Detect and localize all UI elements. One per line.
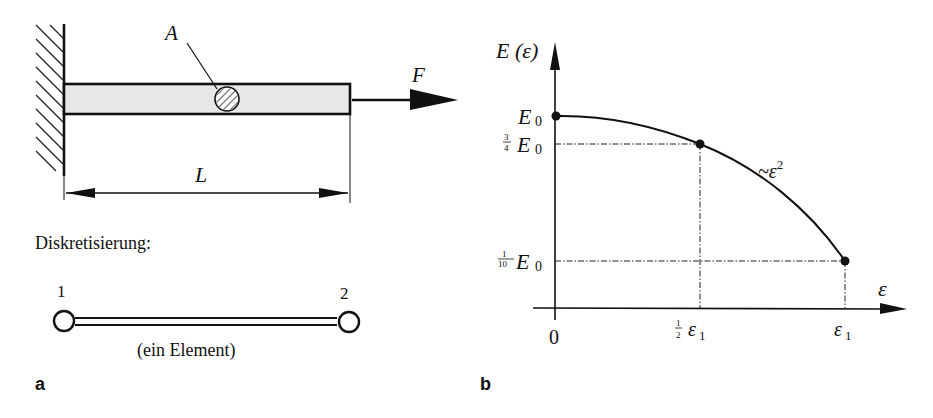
y-axis <box>550 42 560 320</box>
x-tick-half-sub: 1 <box>699 328 706 343</box>
y-tick-three-quarter-text: E <box>516 132 531 157</box>
y-tick-three-quarter-num: 3 <box>504 132 509 142</box>
force-label: F <box>411 63 425 87</box>
reference-lines <box>555 144 845 308</box>
figure-canvas: A F L Diskretisierung: 1 2 (ein Element)… <box>0 0 933 418</box>
data-point-three-quarter <box>696 140 705 149</box>
panel-b: E (ε) ε ~ε2 E 0 3 4 E 0 <box>480 38 907 394</box>
y-tick-e0-sub: 0 <box>535 114 542 129</box>
x-tick-half-num: 1 <box>676 318 681 328</box>
data-point-one-tenth <box>841 257 850 266</box>
node-2 <box>339 312 359 332</box>
length-label: L <box>194 162 207 187</box>
panel-a: A F L Diskretisierung: 1 2 (ein Element)… <box>35 21 458 394</box>
x-tick-zero: 0 <box>549 326 559 348</box>
x-tick-half-text: ε <box>688 318 696 340</box>
curve-annotation-text: ~ε <box>758 160 777 182</box>
data-point-e0 <box>552 112 561 121</box>
node-2-label: 2 <box>340 284 349 303</box>
y-tick-one-tenth-sub: 0 <box>535 259 542 274</box>
node-1-label: 1 <box>57 282 66 301</box>
y-tick-one-tenth-num: 1 <box>502 249 507 259</box>
y-tick-three-quarter-den: 4 <box>504 143 509 153</box>
curve-annotation: ~ε2 <box>758 157 783 182</box>
x-tick-half-eps1: 1 2 ε 1 <box>675 318 706 343</box>
curve-annotation-exponent: 2 <box>777 157 784 172</box>
x-tick-eps1-text: ε <box>834 318 842 340</box>
discretization-title: Diskretisierung: <box>35 233 151 253</box>
finite-element-bar <box>75 318 337 325</box>
x-axis <box>533 303 907 314</box>
x-tick-eps1-sub: 1 <box>845 328 852 343</box>
beam-bar <box>64 84 350 114</box>
force-arrow <box>352 89 458 110</box>
node-1 <box>54 311 74 331</box>
length-dimension-line <box>64 114 350 203</box>
element-caption: (ein Element) <box>137 340 235 361</box>
y-axis-label-text: E (ε) <box>495 38 538 63</box>
panel-a-label: a <box>35 374 46 394</box>
panel-b-label: b <box>480 374 491 394</box>
y-tick-e0: E 0 <box>517 104 542 129</box>
y-tick-three-quarter: 3 4 E 0 <box>503 132 542 157</box>
x-axis-label: ε <box>878 276 887 301</box>
y-tick-one-tenth-text: E <box>515 249 530 274</box>
x-tick-half-den: 2 <box>676 330 681 340</box>
x-tick-eps1: ε 1 <box>834 318 852 343</box>
cross-section-label: A <box>163 21 178 45</box>
y-tick-one-tenth-den: 10 <box>498 259 508 269</box>
fixed-wall-support <box>36 24 64 176</box>
y-tick-e0-text: E <box>517 104 532 129</box>
y-tick-three-quarter-sub: 0 <box>535 142 542 157</box>
y-axis-label: E (ε) <box>495 38 538 63</box>
y-tick-one-tenth: 1 10 E 0 <box>498 249 542 274</box>
